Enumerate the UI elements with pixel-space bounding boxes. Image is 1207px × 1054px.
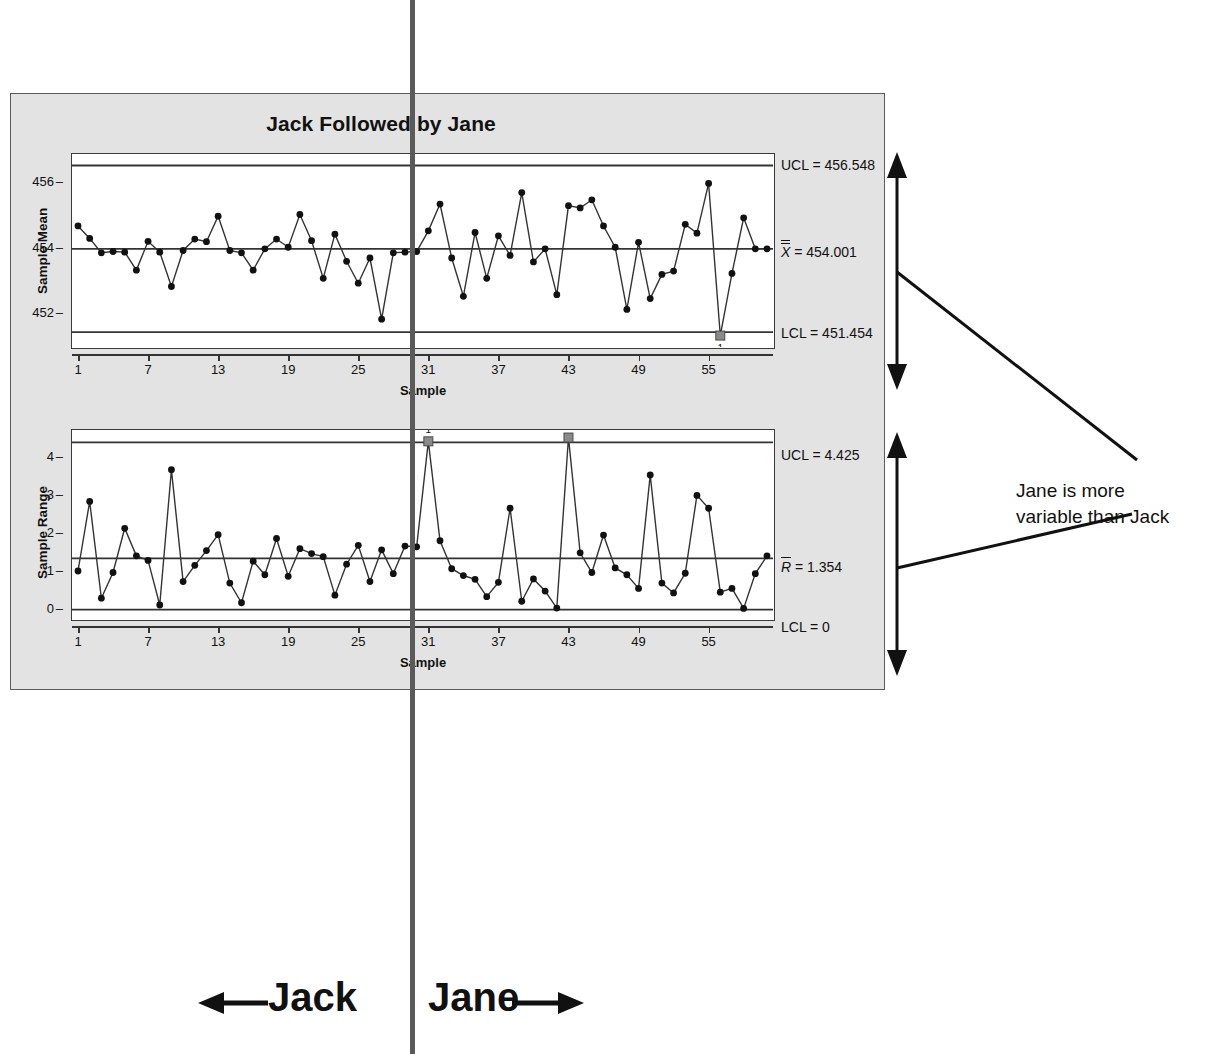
r-data-point [647,472,654,479]
xbar-data-point [577,205,584,212]
r-y-tick: 4– [11,449,63,464]
xbar-data-point [483,275,490,282]
annotation-line-1: Jane is more [1016,478,1169,504]
r-x-tick: 49 [619,634,659,649]
xbar-data-point [612,244,619,251]
r-data-point [588,569,595,576]
chart-panel: Jack Followed by Jane Sample Mean 1 452–… [10,93,885,690]
xbar-series-line [78,183,767,335]
xbar-data-point [682,221,689,228]
r-data-point [226,580,233,587]
xbar-data-point [460,293,467,300]
xbar-data-point [98,249,105,256]
annotation-overlay [880,140,1207,700]
xbar-data-point [448,255,455,262]
xbar-data-point [332,231,339,238]
xbar-x-tick: 7 [128,362,168,377]
r-data-point [238,599,245,606]
xbar-data-point [308,237,315,244]
xbar-out-of-control-marker [716,331,725,340]
r-data-point [402,543,409,550]
r-x-tick: 7 [128,634,168,649]
r-data-point [437,537,444,544]
r-y-tick: 3– [11,487,63,502]
r-lcl-label: LCL = 0 [781,619,830,635]
r-data-point [530,576,537,583]
xbar-data-point [390,249,397,256]
xbar-data-point [507,252,514,259]
xbar-data-point [285,244,292,251]
annotation-callout: Jane is more variable than Jack [1016,478,1169,530]
xbar-data-point [530,259,537,266]
xbar-data-point [542,245,549,252]
r-out-of-control-marker [564,433,573,442]
xbar-x-tick: 37 [478,362,518,377]
r-out-of-control-marker [424,437,433,446]
r-data-point [542,588,549,595]
r-x-tick: 1 [58,634,98,649]
r-data-point [203,547,210,554]
r-x-axis-rule [72,626,773,628]
xbar-y-tick: 452– [11,305,63,320]
xbar-data-point [320,275,327,282]
xbar-data-point [110,248,117,255]
xbar-data-point [86,235,93,242]
annotation-leader-upper [897,272,1137,460]
jane-arrow [512,992,584,1014]
xbar-data-point [658,271,665,278]
r-plot-area: 1 [71,429,775,621]
r-x-tick: 25 [338,634,378,649]
xbar-x-tick: 13 [198,362,238,377]
xbar-out-of-control-label: 1 [718,343,724,347]
r-data-point [250,558,257,565]
xbar-data-point [238,249,245,256]
xbar-data-point [425,227,432,234]
xbar-data-point [764,245,771,252]
xbar-plot-svg: 1 [72,154,773,347]
r-data-point [729,585,736,592]
r-data-point [215,531,222,538]
xbar-data-point [378,316,385,323]
xbar-ucl-label: UCL = 456.548 [781,157,875,173]
xbar-data-point [600,223,607,230]
r-data-point [448,565,455,572]
xbar-data-point [226,247,233,254]
r-x-tick: 19 [268,634,308,649]
xbar-data-point [472,229,479,236]
r-data-point [110,569,117,576]
r-data-point [600,532,607,539]
xbar-data-point [437,201,444,208]
tick-dash-icon: – [54,449,63,464]
xbar-data-point [355,280,362,287]
r-data-point [332,592,339,599]
xbar-lcl-label: LCL = 451.454 [781,325,873,341]
r-center-symbol: R [781,559,791,575]
xbar-data-point [565,202,572,209]
xbar-data-point [553,291,560,298]
r-y-tick: 2– [11,525,63,540]
r-data-point [343,561,350,568]
r-data-point [367,578,374,585]
r-x-tick: 43 [548,634,588,649]
jack-arrow [198,992,268,1014]
xbar-data-point [180,247,187,254]
r-data-point [98,595,105,602]
tick-dash-icon: – [54,487,63,502]
xbar-data-point [740,214,747,221]
xbar-spread-arrow [887,152,907,390]
tick-dash-icon: – [54,240,63,255]
r-data-point [623,571,630,578]
r-y-tick: 1– [11,563,63,578]
r-data-point [133,552,140,559]
xbar-x-tick: 49 [619,362,659,377]
page-title: Jack Followed by Jane [11,112,751,136]
tick-dash-icon: – [54,305,63,320]
xbar-data-point [518,189,525,196]
xbar-data-point [133,267,140,274]
r-data-point [705,505,712,512]
r-data-point [145,557,152,564]
r-data-point [694,492,701,499]
r-out-of-control-label: 1 [426,430,432,435]
xbar-data-point [145,238,152,245]
xbar-data-point [752,245,759,252]
